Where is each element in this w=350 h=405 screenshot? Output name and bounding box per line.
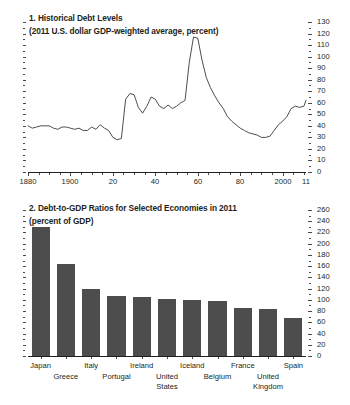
chart1-x-tick bbox=[155, 173, 156, 176]
chart2-x-tick bbox=[116, 357, 117, 359]
chart2-category-label-line: Japan bbox=[30, 361, 51, 371]
chart2-category-label: Portugal bbox=[102, 372, 130, 382]
chart1-y-minor-tick bbox=[309, 132, 311, 133]
chart1-y-minor-tick bbox=[309, 109, 311, 110]
chart1-y-tick bbox=[308, 45, 312, 46]
chart1-plot-area bbox=[28, 22, 306, 172]
chart1-y-left-tick bbox=[23, 51, 25, 52]
chart2-category-label: Italy bbox=[84, 361, 98, 371]
chart1-y-left-tick bbox=[23, 172, 26, 173]
chart2-bar bbox=[234, 308, 252, 356]
chart1-y-tick bbox=[308, 91, 312, 92]
chart1-y-left-tick bbox=[23, 114, 26, 115]
chart2-bar bbox=[259, 309, 277, 356]
chart1-x-tick bbox=[145, 173, 146, 175]
chart1-y-left-tick bbox=[23, 149, 26, 150]
chart1-x-tick bbox=[39, 173, 40, 175]
chart1-y-minor-tick bbox=[309, 39, 311, 40]
chart2-category-label-line: United bbox=[156, 372, 178, 382]
chart2-y-minor-tick bbox=[309, 227, 311, 228]
chart1-x-tick bbox=[177, 173, 178, 175]
chart1-y-left-tick bbox=[23, 109, 25, 110]
chart1-x-tick bbox=[208, 173, 209, 175]
chart1-x-tick bbox=[113, 173, 114, 176]
chart1-x-tick bbox=[272, 173, 273, 175]
chart2-bar bbox=[208, 301, 226, 356]
chart1-y-tick-label: 120 bbox=[317, 30, 330, 38]
chart1-x-tick-label: 11 bbox=[302, 178, 310, 186]
chart2-y-minor-tick bbox=[309, 283, 311, 284]
chart1-y-tick-label: 30 bbox=[317, 133, 325, 141]
chart1-x-tick-label: 1880 bbox=[20, 178, 37, 186]
chart2-x-tick bbox=[192, 357, 193, 359]
chart1-y-tick bbox=[308, 80, 312, 81]
chart1-y-minor-tick bbox=[309, 155, 311, 156]
chart2-bar bbox=[82, 289, 100, 356]
chart1-y-tick bbox=[308, 22, 312, 23]
chart1-x-tick bbox=[187, 173, 188, 175]
chart1-y-minor-tick bbox=[309, 28, 311, 29]
chart2-y-minor-tick bbox=[309, 328, 311, 329]
chart2-y-left-tick bbox=[23, 294, 25, 295]
chart2-y-minor-tick bbox=[309, 317, 311, 318]
chart2-y-minor-tick bbox=[309, 339, 311, 340]
chart2-y-tick-label: 80 bbox=[317, 307, 325, 315]
chart2-y-tick-label: 100 bbox=[317, 296, 330, 304]
chart2-y-left-tick bbox=[23, 227, 25, 228]
chart1-x-tick bbox=[198, 173, 199, 176]
chart2-y-tick-label: 0 bbox=[317, 352, 321, 360]
chart1-y-tick-label: 100 bbox=[317, 53, 330, 61]
chart2-y-left-tick bbox=[23, 216, 25, 217]
chart1-x-tick-label: 60 bbox=[194, 178, 202, 186]
chart1-y-left-tick bbox=[23, 22, 26, 23]
chart2-x-tick bbox=[167, 357, 168, 359]
chart2-y-tick bbox=[308, 356, 312, 357]
chart2-x-tick bbox=[142, 357, 143, 359]
chart1-y-left-tick bbox=[23, 57, 26, 58]
chart1-debt-line bbox=[28, 37, 306, 140]
chart1-y-tick-label: 70 bbox=[317, 87, 325, 95]
chart2-y-left-tick bbox=[23, 339, 25, 340]
chart2-category-label: UnitedStates bbox=[156, 372, 178, 392]
chart2-y-left-tick bbox=[23, 356, 26, 357]
chart1-y-tick-label: 110 bbox=[317, 41, 329, 49]
chart2-y-tick bbox=[308, 322, 312, 323]
chart2-y-minor-tick bbox=[309, 294, 311, 295]
chart1-y-left-tick bbox=[23, 62, 25, 63]
chart1-y-tick bbox=[308, 57, 312, 58]
chart1-x-tick bbox=[70, 173, 71, 176]
chart2-x-tick bbox=[41, 357, 42, 359]
chart1-x-tick-label: 1900 bbox=[62, 178, 79, 186]
chart2-category-label-line: Iceland bbox=[180, 361, 205, 371]
chart2-bar bbox=[32, 227, 50, 356]
chart1-y-tick bbox=[308, 172, 312, 173]
chart2-y-tick-label: 260 bbox=[317, 206, 330, 214]
chart1-y-minor-tick bbox=[309, 166, 311, 167]
chart2-y-left-tick bbox=[23, 283, 25, 284]
chart1-y-tick bbox=[308, 137, 312, 138]
chart1-y-left-tick bbox=[23, 68, 26, 69]
chart2-y-tick-label: 40 bbox=[317, 330, 325, 338]
chart2-category-label: Spain bbox=[284, 361, 303, 371]
chart1-y-left-tick bbox=[23, 155, 25, 156]
chart1-y-tick-label: 60 bbox=[317, 99, 325, 107]
chart2-y-tick-label: 140 bbox=[317, 273, 330, 281]
chart2-x-tick bbox=[91, 357, 92, 359]
chart2-y-tick-label: 160 bbox=[317, 262, 330, 270]
chart1-y-left-tick bbox=[23, 85, 25, 86]
chart1-y-minor-tick bbox=[309, 62, 311, 63]
chart2-y-tick bbox=[308, 266, 312, 267]
chart2-y-left-tick bbox=[23, 255, 26, 256]
chart2-bar bbox=[107, 296, 125, 356]
chart2-bar bbox=[183, 300, 201, 356]
chart2-y-tick bbox=[308, 277, 312, 278]
chart1-y-tick-label: 10 bbox=[317, 156, 325, 164]
chart1-y-left-tick bbox=[23, 39, 25, 40]
chart2-y-tick bbox=[308, 232, 312, 233]
chart1-y-tick bbox=[308, 126, 312, 127]
chart2-y-left-tick bbox=[23, 244, 26, 245]
chart1-y-minor-tick bbox=[309, 97, 311, 98]
chart1-x-tick bbox=[81, 173, 82, 175]
chart1-y-tick bbox=[308, 114, 312, 115]
chart1-y-tick-label: 130 bbox=[317, 18, 330, 26]
